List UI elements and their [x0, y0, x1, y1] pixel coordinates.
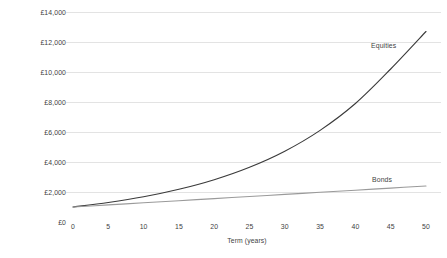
x-axis-tick-label: 20: [199, 222, 229, 231]
x-axis-tick-label: 25: [235, 222, 265, 231]
x-axis-tick-label: 45: [376, 222, 406, 231]
series-label-bonds: Bonds: [372, 175, 392, 184]
series-label-equities: Equities: [371, 41, 396, 50]
x-axis-title: Term (years): [73, 236, 421, 246]
x-axis-tick-label: 5: [93, 222, 123, 231]
x-axis-tick-label: 15: [164, 222, 194, 231]
x-axis-tick-label: 30: [270, 222, 300, 231]
x-axis-tick-label: 35: [305, 222, 335, 231]
x-axis-tick-label: 50: [411, 222, 441, 231]
chart-container: Projected value of investments £0£2,000£…: [0, 0, 447, 258]
x-axis-tick-labels: 05101520253035404550: [0, 0, 447, 258]
x-axis-tick-label: 40: [340, 222, 370, 231]
x-axis-tick-label: 10: [129, 222, 159, 231]
x-axis-tick-label: 0: [58, 222, 88, 231]
